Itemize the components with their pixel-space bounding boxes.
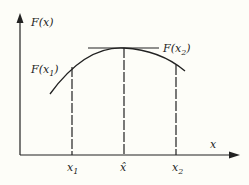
x1-tick-label: x1	[67, 161, 78, 176]
xhat-tick-label: x̂	[120, 161, 127, 174]
y-axis-arrow-icon	[17, 13, 24, 23]
concave-function-diagram: F(x) x F(x1) F(x2) x1 x̂ x2	[0, 0, 249, 185]
x-axis-arrow-icon	[229, 152, 240, 159]
y-axis-label: F(x)	[30, 16, 53, 29]
x2-tick-label: x2	[172, 161, 183, 176]
f-x1-label: F(x1)	[30, 63, 59, 78]
x-axis-label: x	[210, 138, 217, 151]
f-x2-label: F(x2)	[162, 42, 191, 57]
